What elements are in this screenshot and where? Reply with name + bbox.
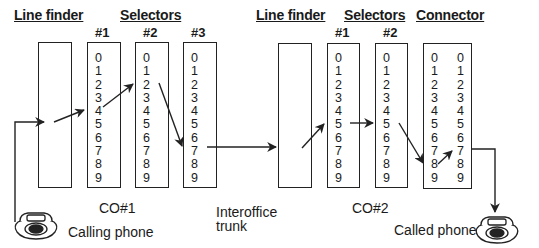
arrow-lf2-to-sel1 — [302, 124, 324, 148]
calling-line — [15, 122, 44, 222]
arrow-connector-units — [438, 151, 452, 164]
arrow-sel2-to-connector — [399, 123, 423, 163]
arrow-sel2-to-sel3 — [159, 83, 182, 146]
arrow-sel1-to-sel2 — [103, 84, 133, 107]
called-phone-icon — [476, 217, 518, 243]
calling-phone-icon — [15, 213, 57, 239]
called-line — [472, 149, 495, 212]
arrow-lf1-to-sel1 — [54, 110, 84, 122]
connection-paths — [0, 0, 539, 248]
